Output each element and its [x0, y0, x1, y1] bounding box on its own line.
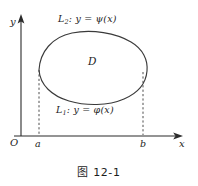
lower-curve-equation: : y = φ(x)	[67, 104, 114, 115]
figure-container: L2: y = ψ(x) L1: y = φ(x) D y x O a b 图 …	[0, 0, 198, 186]
lower-curve-label: L1: y = φ(x)	[56, 105, 114, 115]
figure-graphic	[0, 0, 198, 186]
origin-label: O	[10, 138, 18, 148]
region-label-d: D	[88, 56, 96, 67]
upper-curve-label: L2: y = ψ(x)	[58, 14, 117, 24]
figure-caption: 图 12-1	[0, 163, 198, 179]
x-axis-label: x	[179, 139, 185, 149]
y-axis-label: y	[10, 17, 16, 27]
region-boundary-curve	[39, 31, 147, 104]
x-tick-label-a: a	[35, 139, 41, 149]
upper-curve-equation: : y = ψ(x)	[69, 13, 117, 24]
x-tick-label-b: b	[140, 139, 146, 149]
